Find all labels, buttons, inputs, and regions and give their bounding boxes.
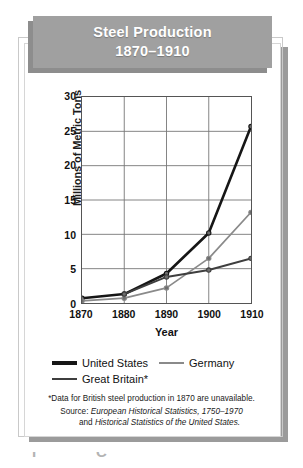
- source-conjunction: and: [79, 418, 95, 427]
- swatch-great-britain-icon: [52, 378, 77, 381]
- x-tick-1900: 1900: [198, 308, 221, 320]
- x-axis-label: Year: [81, 326, 252, 338]
- legend-label-germany: Germany: [189, 357, 234, 369]
- source-prefix: Source:: [60, 407, 91, 416]
- bleed-fragment-right: C: [96, 452, 107, 460]
- bleed-fragment-left: I: [32, 452, 36, 460]
- legend-row-1: United States Germany: [24, 355, 279, 371]
- page-bleed-text: I C: [0, 452, 303, 468]
- y-axis-ticks: 0 5 10 15 20 25 30: [54, 96, 76, 304]
- source-citation: Source: European Historical Statistics, …: [24, 407, 279, 428]
- x-tick-1870: 1870: [69, 308, 92, 320]
- chart-area: Millions of Metric Tons 0 5 10 15 20 25 …: [24, 82, 279, 352]
- plot-svg: [82, 97, 251, 303]
- legend-item-germany: Germany: [159, 357, 234, 369]
- chart-title-line-2: 1870–1910: [115, 42, 189, 61]
- y-tick-20: 20: [64, 159, 76, 171]
- chart-title-banner: Steel Production 1870–1910: [33, 16, 272, 68]
- series-great-britain: [122, 256, 251, 296]
- x-axis-ticks: 1870 1880 1890 1900 1910: [81, 308, 252, 323]
- chart-title-line-1: Steel Production: [93, 23, 211, 42]
- y-tick-15: 15: [64, 194, 76, 206]
- y-tick-25: 25: [64, 125, 76, 137]
- legend-label-great-britain: Great Britain*: [82, 373, 148, 385]
- swatch-united-states-icon: [52, 361, 77, 364]
- chart-legend: United States Germany Great Britain*: [24, 355, 279, 387]
- x-tick-1910: 1910: [240, 308, 263, 320]
- swatch-germany-icon: [159, 362, 184, 364]
- footnote-text: *Data for British steel production in 18…: [24, 394, 279, 403]
- source-title-1: European Historical Statistics, 1750–197…: [91, 407, 243, 416]
- legend-row-2: Great Britain*: [24, 371, 279, 387]
- x-tick-1880: 1880: [112, 308, 135, 320]
- y-tick-10: 10: [64, 229, 76, 241]
- source-line-2: and Historical Statistics of the United …: [24, 418, 279, 429]
- legend-label-united-states: United States: [82, 357, 148, 369]
- chart-notes: *Data for British steel production in 18…: [24, 394, 279, 428]
- x-tick-1890: 1890: [155, 308, 178, 320]
- plot-area: [81, 96, 252, 304]
- legend-item-united-states: United States: [52, 357, 148, 369]
- y-tick-5: 5: [70, 263, 76, 275]
- y-tick-30: 30: [64, 90, 76, 102]
- source-title-2: Historical Statistics of the United Stat…: [95, 418, 240, 427]
- source-line-1: Source: European Historical Statistics, …: [24, 407, 279, 418]
- legend-item-great-britain: Great Britain*: [52, 373, 148, 385]
